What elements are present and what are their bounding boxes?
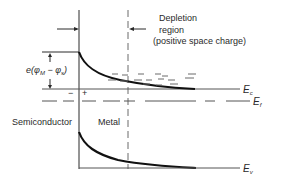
ev-label: Ev [243, 164, 253, 175]
valence-band-curve [79, 132, 196, 168]
ev-main: E [243, 163, 250, 174]
depletion-label-line1: Depletion [159, 14, 197, 23]
barrier-minus: − [45, 65, 55, 75]
semiconductor-label: Semiconductor [12, 118, 72, 127]
minus-sign: − [68, 89, 73, 98]
barrier-height-label: e(φM − φs) [26, 66, 67, 76]
depletion-label-line2: region [159, 26, 184, 35]
depletion-width-arrows [57, 27, 146, 31]
conduction-band-curve [79, 52, 195, 89]
barrier-prefix: e( [26, 65, 34, 75]
plus-sign: + [82, 89, 87, 98]
metal-label: Metal [98, 118, 120, 127]
ef-label: Ef [253, 97, 261, 108]
depletion-label-line3: (positive space charge) [153, 37, 246, 46]
ef-subscript: f [260, 102, 262, 108]
ec-label: Ec [243, 85, 253, 96]
ec-main: E [243, 84, 250, 95]
ev-subscript: v [250, 169, 253, 175]
energy-band-diagram: Depletion region (positive space charge)… [0, 0, 290, 181]
barrier-suffix: ) [64, 65, 67, 75]
ef-main: E [253, 96, 260, 107]
